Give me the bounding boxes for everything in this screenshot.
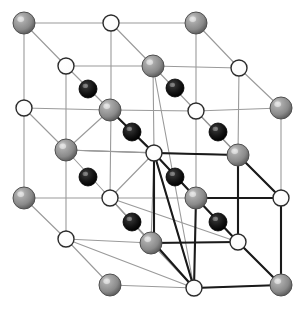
- black-atom-specular-highlight: [83, 172, 88, 176]
- gray-atom: [270, 97, 292, 119]
- black-atom-body: [79, 80, 97, 98]
- white-atom-body: [273, 190, 289, 206]
- black-atom: [79, 168, 97, 186]
- white-atom-body: [102, 190, 118, 206]
- white-atom-body: [230, 234, 246, 250]
- white-atom: [58, 58, 74, 74]
- black-atom-specular-highlight: [170, 83, 175, 87]
- gray-atom: [13, 12, 35, 34]
- black-atom: [79, 80, 97, 98]
- black-atom-specular-highlight: [83, 84, 88, 88]
- black-atom-body: [209, 123, 227, 141]
- gray-atom: [99, 99, 121, 121]
- gray-atom-body: [13, 12, 35, 34]
- gray-atom-body: [99, 274, 121, 296]
- white-atom: [273, 190, 289, 206]
- black-atom: [209, 213, 227, 231]
- white-atom: [102, 190, 118, 206]
- white-atom: [58, 231, 74, 247]
- black-atom-specular-highlight: [127, 217, 132, 221]
- gray-atom: [140, 232, 162, 254]
- gray-atom-body: [142, 55, 164, 77]
- black-atom: [123, 213, 141, 231]
- gray-atom-body: [185, 12, 207, 34]
- black-atom-body: [166, 79, 184, 97]
- gray-atom-specular-highlight: [144, 237, 151, 242]
- white-atom-body: [103, 15, 119, 31]
- gray-atom-specular-highlight: [59, 144, 66, 149]
- gray-atom-body: [99, 99, 121, 121]
- black-atom-specular-highlight: [170, 172, 175, 176]
- white-atom-body: [186, 280, 202, 296]
- gray-atom: [270, 274, 292, 296]
- gray-atom: [227, 144, 249, 166]
- black-atom-body: [123, 213, 141, 231]
- gray-atom: [99, 274, 121, 296]
- gray-atom: [142, 55, 164, 77]
- gray-atom-body: [270, 274, 292, 296]
- gray-atom: [55, 139, 77, 161]
- black-atom: [123, 123, 141, 141]
- white-atom: [186, 280, 202, 296]
- white-atom: [16, 100, 32, 116]
- gray-atom-specular-highlight: [189, 17, 196, 22]
- gray-atom-specular-highlight: [103, 279, 110, 284]
- white-atom: [230, 234, 246, 250]
- gray-atom-body: [227, 144, 249, 166]
- gray-atom-specular-highlight: [189, 192, 196, 197]
- black-atom-body: [123, 123, 141, 141]
- black-atom-specular-highlight: [213, 127, 218, 131]
- black-atom-specular-highlight: [127, 127, 132, 131]
- gray-atom-body: [270, 97, 292, 119]
- crystal-lattice-canvas: [0, 0, 305, 310]
- white-atom-body: [146, 145, 162, 161]
- black-atom-body: [209, 213, 227, 231]
- crystal-lattice-figure: [0, 0, 305, 310]
- white-atom: [103, 15, 119, 31]
- black-atom: [166, 79, 184, 97]
- gray-atom-body: [185, 187, 207, 209]
- black-atom-specular-highlight: [213, 217, 218, 221]
- lattice-edge-highlighted: [151, 242, 238, 243]
- white-atom: [188, 103, 204, 119]
- gray-atom: [185, 12, 207, 34]
- white-atom-body: [58, 58, 74, 74]
- gray-atom-specular-highlight: [146, 60, 153, 65]
- gray-atom: [185, 187, 207, 209]
- gray-atom-specular-highlight: [17, 17, 24, 22]
- gray-atom-specular-highlight: [103, 104, 110, 109]
- black-atom-body: [79, 168, 97, 186]
- gray-atom-body: [55, 139, 77, 161]
- white-atom-body: [58, 231, 74, 247]
- gray-atom-specular-highlight: [274, 279, 281, 284]
- white-atom: [146, 145, 162, 161]
- black-atom-body: [166, 168, 184, 186]
- gray-atom-specular-highlight: [231, 149, 238, 154]
- gray-atom-body: [13, 187, 35, 209]
- white-atom-body: [231, 60, 247, 76]
- gray-atom-specular-highlight: [17, 192, 24, 197]
- white-atom-body: [16, 100, 32, 116]
- gray-atom-body: [140, 232, 162, 254]
- gray-atom-specular-highlight: [274, 102, 281, 107]
- black-atom: [166, 168, 184, 186]
- white-atom-body: [188, 103, 204, 119]
- black-atom: [209, 123, 227, 141]
- gray-atom: [13, 187, 35, 209]
- white-atom: [231, 60, 247, 76]
